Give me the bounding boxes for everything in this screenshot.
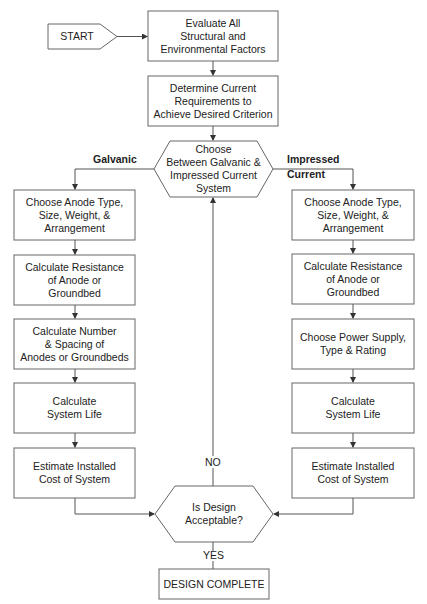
determine-current-node: Determine Current Requirements to Achiev… <box>148 76 278 126</box>
yes-label: YES <box>203 549 224 561</box>
impressed-step-1: Choose Anode Type, Size, Weight, & Arran… <box>292 190 414 240</box>
design-complete-node: DESIGN COMPLETE <box>159 569 269 599</box>
design-acceptable-decision: Is Design Acceptable? <box>160 486 268 542</box>
impressed-step-3: Choose Power Supply, Type & Rating <box>292 319 414 369</box>
impressed-step-5: Estimate Installed Cost of System <box>292 448 414 498</box>
galvanic-step-3: Calculate Number & Spacing of Anodes or … <box>14 319 135 369</box>
choose-system-decision: Choose Between Galvanic & Impressed Curr… <box>158 141 269 197</box>
impressed-current-branch-label: Impressed Current <box>287 152 340 182</box>
impressed-step-2: Calculate Resistance of Anode or Groundb… <box>292 254 414 304</box>
galvanic-step-5: Estimate Installed Cost of System <box>14 448 135 498</box>
no-label: NO <box>205 456 221 468</box>
start-node: START <box>48 24 106 49</box>
galvanic-step-4: Calculate System Life <box>14 383 135 433</box>
impressed-step-4: Calculate System Life <box>292 383 414 433</box>
galvanic-branch-label: Galvanic <box>93 153 137 165</box>
evaluate-factors-node: Evaluate All Structural and Environmenta… <box>148 11 278 61</box>
galvanic-step-2: Calculate Resistance of Anode or Groundb… <box>14 255 135 305</box>
galvanic-step-1: Choose Anode Type, Size, Weight, & Arran… <box>14 190 135 240</box>
